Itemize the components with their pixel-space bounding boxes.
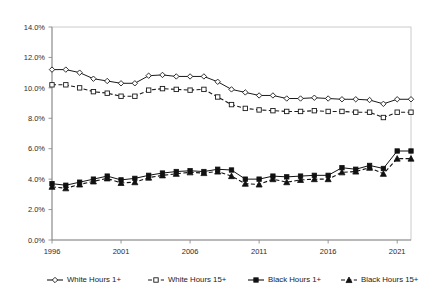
x-tick-label: 2021 [389,247,406,256]
legend-label: White Hours 1+ [67,275,121,284]
y-tick-label: 6.0% [28,144,45,153]
data-point [354,110,358,114]
y-tick-label: 0.0% [28,236,45,245]
y-tick-label: 10.0% [24,84,46,93]
data-point [340,109,344,113]
x-tick-label: 2006 [182,247,199,256]
data-point [298,109,302,113]
chart-container: 0.0%2.0%4.0%6.0%8.0%10.0%12.0%14.0% 1996… [0,0,440,298]
data-point [133,94,137,98]
x-tick-label: 2011 [251,247,267,256]
data-point [91,89,95,93]
data-point [326,109,330,113]
data-point [188,88,192,92]
data-point [64,83,68,87]
chart-background [0,0,440,298]
data-point [395,149,399,153]
y-tick-label: 4.0% [28,175,45,184]
data-point [174,87,178,91]
data-point [243,106,247,110]
y-tick-label: 2.0% [28,205,45,214]
data-point [119,94,123,98]
data-point [257,108,261,112]
data-point [312,108,316,112]
legend-marker [254,278,258,282]
data-point [409,110,413,114]
data-point [285,109,289,113]
x-tick-label: 2001 [113,247,130,256]
data-point [77,86,81,90]
x-tick-label: 2016 [320,247,337,256]
y-tick-label: 14.0% [24,23,46,32]
data-point [202,87,206,91]
legend-label: White Hours 15+ [168,275,227,284]
data-point [229,168,233,172]
data-point [215,95,219,99]
legend-label: Black Hours 1+ [268,275,322,284]
line-chart: 0.0%2.0%4.0%6.0%8.0%10.0%12.0%14.0% 1996… [0,0,440,298]
y-tick-label: 8.0% [28,114,45,123]
data-point [409,149,413,153]
data-point [105,91,109,95]
legend-label: Black Hours 15+ [361,275,419,284]
x-tick-label: 1996 [44,247,61,256]
data-point [381,115,385,119]
data-point [229,102,233,106]
data-point [146,88,150,92]
data-point [271,108,275,112]
data-point [367,110,371,114]
data-point [160,86,164,90]
legend-marker [154,278,158,282]
y-tick-label: 12.0% [24,53,46,62]
data-point [50,83,54,87]
data-point [395,110,399,114]
